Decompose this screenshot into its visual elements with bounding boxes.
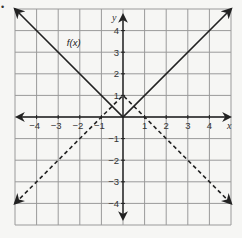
y-tick-label: 3 bbox=[114, 47, 119, 58]
coordinate-plane-graph: −4−3−2−112344321−1−2−3−4 f(x) xy bbox=[0, 0, 242, 238]
y-tick-label: 1 bbox=[114, 90, 119, 101]
x-tick-label: 4 bbox=[207, 120, 212, 131]
x-axis-label: x bbox=[226, 120, 232, 131]
y-tick-label: −3 bbox=[108, 176, 119, 187]
x-tick-label: 3 bbox=[185, 120, 190, 131]
x-tick-label: −2 bbox=[72, 120, 83, 131]
y-tick-label: −4 bbox=[108, 198, 119, 209]
y-axis-label: y bbox=[111, 12, 117, 23]
x-tick-label: −3 bbox=[51, 120, 62, 131]
x-tick-label: 2 bbox=[164, 120, 169, 131]
x-tick-label: −4 bbox=[29, 120, 40, 131]
y-tick-label: 4 bbox=[114, 25, 119, 36]
y-tick-label: −2 bbox=[108, 155, 119, 166]
y-tick-label: −1 bbox=[108, 133, 119, 144]
series-label: f(x) bbox=[67, 37, 81, 48]
x-tick-label: 1 bbox=[142, 120, 147, 131]
y-tick-label: 2 bbox=[114, 68, 119, 79]
x-tick-label: −1 bbox=[94, 120, 105, 131]
axis-labels: xy bbox=[111, 12, 232, 131]
